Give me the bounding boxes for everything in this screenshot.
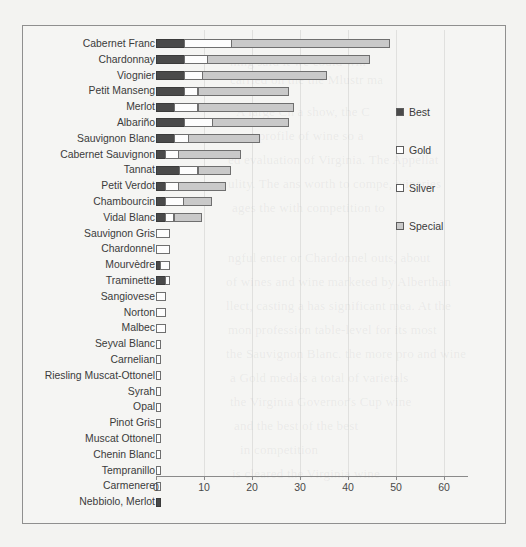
chart-row: Chambourcin (23, 194, 507, 210)
stacked-bar (156, 39, 390, 48)
legend-item-best[interactable]: Best (396, 106, 430, 118)
category-label: Chardonnel (101, 241, 155, 257)
bar-segment-special (198, 87, 289, 96)
category-label: Norton (124, 305, 155, 321)
chart-row: Albariño (23, 115, 507, 131)
x-tick (252, 476, 253, 480)
chart-row: Chenin Blanc (23, 447, 507, 463)
x-tick (348, 476, 349, 480)
bar-segment-gold (165, 276, 170, 285)
chart-row: Tannat (23, 162, 507, 178)
category-label: Tempranillo (102, 463, 155, 479)
stacked-bar (156, 118, 289, 127)
category-label: Mourvèdre (105, 257, 155, 273)
category-label: Cabernet Franc (83, 36, 155, 52)
bar-segment-gold (156, 340, 161, 349)
bar-segment-gold (156, 419, 161, 428)
category-label: Carnelian (111, 352, 155, 368)
category-label: Albariño (117, 115, 155, 131)
stacked-bar (156, 213, 202, 222)
bar-segment-gold (184, 87, 198, 96)
legend-swatch-icon (396, 146, 404, 154)
category-label: Opal (133, 399, 155, 415)
legend-label: Special (409, 220, 443, 232)
stacked-bar (156, 498, 161, 507)
stacked-bar (156, 150, 241, 159)
bar-segment-gold (156, 434, 161, 443)
chart-row: Petit Manseng (23, 83, 507, 99)
bar-segment-best (156, 166, 180, 175)
bar-segment-gold (156, 466, 161, 475)
legend-item-gold[interactable]: Gold (396, 144, 431, 156)
chart-row: Chardonnay (23, 52, 507, 68)
category-label: Tannat (124, 162, 155, 178)
bar-segment-special (198, 166, 232, 175)
bar-segment-gold (165, 150, 179, 159)
stacked-bar (156, 387, 161, 396)
bar-segment-best (156, 103, 175, 112)
bar-segment-gold (184, 39, 232, 48)
bar-segment-gold (184, 118, 213, 127)
bar-segment-gold (156, 355, 161, 364)
category-label: Pinot Gris (109, 415, 155, 431)
bar-segment-gold (156, 371, 161, 380)
bar-segment-gold (174, 134, 188, 143)
legend-item-silver[interactable]: Silver (396, 182, 435, 194)
chart-row: Sangiovese (23, 289, 507, 305)
stacked-bar (156, 276, 170, 285)
legend-swatch-icon (396, 108, 404, 116)
chart-row: Norton (23, 305, 507, 321)
bar-segment-best (156, 87, 185, 96)
category-label: Vidal Blanc (103, 210, 155, 226)
stacked-bar (156, 466, 161, 475)
plot-area: Cabernet FrancChardonnayViognierPetit Ma… (23, 26, 507, 525)
legend-label: Gold (409, 144, 431, 156)
stacked-bar (156, 134, 260, 143)
x-tick-label: 40 (342, 481, 354, 493)
legend-swatch-icon (396, 222, 404, 230)
category-label: Sauvignon Blanc (77, 131, 155, 147)
x-tick-label: 10 (198, 481, 210, 493)
legend-swatch-icon (396, 184, 404, 192)
legend-item-special[interactable]: Special (396, 220, 443, 232)
bar-segment-best (156, 55, 185, 64)
category-label: Sauvignon Gris (84, 226, 155, 242)
category-label: Chenin Blanc (93, 447, 155, 463)
category-label: Syrah (128, 384, 155, 400)
x-axis-line (156, 476, 468, 477)
category-label: Petit Verdot (101, 178, 155, 194)
legend-label: Best (409, 106, 430, 118)
stacked-bar (156, 434, 161, 443)
bar-segment-best (156, 39, 185, 48)
stacked-bar (156, 87, 289, 96)
bar-segment-best (156, 498, 161, 507)
chart-row: Pinot Gris (23, 415, 507, 431)
bar-segment-gold (156, 450, 161, 459)
stacked-bar (156, 308, 166, 317)
stacked-bar (156, 197, 212, 206)
bar-segment-gold (184, 55, 208, 64)
category-label: Carmenere (103, 478, 155, 494)
bar-segment-gold (179, 166, 198, 175)
bar-segment-gold (174, 103, 198, 112)
x-tick (444, 476, 445, 480)
bar-segment-special (174, 213, 203, 222)
stacked-bar (156, 292, 166, 301)
chart-row: Chardonnel (23, 241, 507, 257)
x-tick-label: 50 (390, 481, 402, 493)
category-label: Chambourcin (93, 194, 155, 210)
bar-segment-special (202, 71, 327, 80)
stacked-bar (156, 166, 231, 175)
chart-row: Riesling Muscat-Ottonel (23, 368, 507, 384)
stacked-bar (156, 450, 161, 459)
bar-segment-gold (156, 387, 161, 396)
category-label: Merlot (126, 99, 155, 115)
bar-segment-special (178, 182, 226, 191)
bar-segment-gold (184, 71, 203, 80)
chart-row: Carnelian (23, 352, 507, 368)
chart-row: Carmenere (23, 478, 507, 494)
chart-row: Traminette (23, 273, 507, 289)
x-tick (300, 476, 301, 480)
category-label: Seyval Blanc (95, 336, 155, 352)
stacked-bar (156, 229, 170, 238)
